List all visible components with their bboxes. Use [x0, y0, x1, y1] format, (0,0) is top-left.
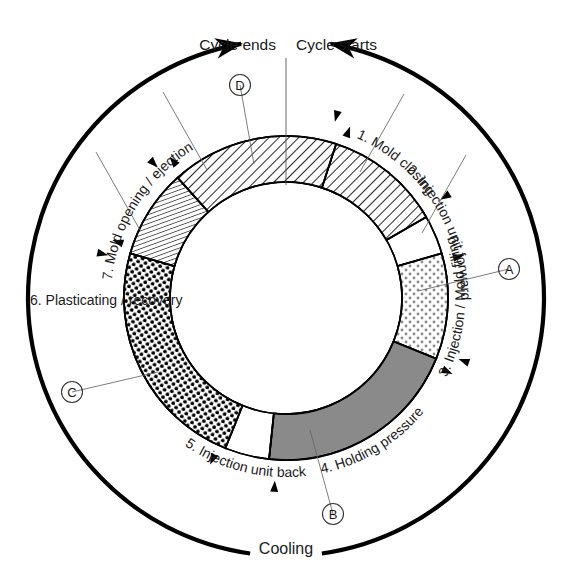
- cycle-ends-label: Cycle ends: [199, 36, 276, 53]
- diagram-canvas: 1. Mold closing2. Injection unit forward…: [0, 0, 562, 583]
- step-label-s6: 6. Plasticating / recovery: [30, 292, 183, 308]
- marker-leader-C: [72, 372, 158, 392]
- cooling-label: Cooling: [259, 540, 313, 557]
- cycle-diagram-svg: 1. Mold closing2. Injection unit forward…: [0, 0, 562, 583]
- arc-arrowhead: [270, 480, 279, 491]
- marker-label-D: D: [235, 78, 244, 93]
- marker-label-C: C: [67, 385, 76, 400]
- cycle-segment-s8: [178, 136, 336, 212]
- arc-arrowhead: [457, 355, 470, 366]
- ring-inner-circle: [170, 182, 402, 414]
- marker-label-B: B: [329, 507, 338, 522]
- cycle-starts-label: Cycle starts: [296, 36, 377, 53]
- arc-arrowhead: [331, 110, 342, 123]
- arc-arrowhead: [342, 125, 353, 138]
- marker-label-A: A: [505, 262, 514, 277]
- ring-inner-overlay: [170, 182, 402, 414]
